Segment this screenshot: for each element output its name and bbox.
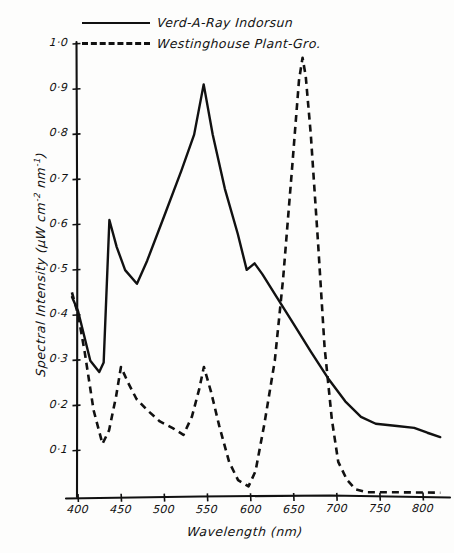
x-tick-label: 700	[319, 502, 354, 515]
y-tick-mark	[73, 134, 81, 135]
y-axis-title: Spectral Intensity (μW cm-2 nm-1)	[30, 140, 49, 390]
x-axis-line	[66, 496, 450, 499]
y-tick-label: 0·2	[39, 398, 68, 411]
y-axis-title-unit-a: μW cm	[33, 202, 48, 249]
y-tick-mark	[73, 224, 81, 225]
y-tick-label: 1·0	[39, 36, 68, 49]
y-axis-title-prefix: Spectral Intensity (	[33, 247, 48, 377]
y-tick-mark	[73, 270, 81, 271]
y-axis-title-unit-b: nm	[33, 166, 48, 193]
x-tick-label: 600	[233, 503, 268, 516]
axes-group	[66, 42, 450, 502]
x-tick-label: 500	[147, 503, 182, 516]
plot-area: 0·10·20·30·40·50·60·70·80·91·0 400450500…	[0, 0, 454, 553]
chart-figure: Verd-A-Ray Indorsun Westinghouse Plant-G…	[0, 0, 454, 553]
series-line-verd-a-ray	[72, 84, 440, 437]
y-tick-mark	[73, 360, 81, 361]
y-tick-mark	[73, 450, 81, 451]
y-tick-mark	[73, 44, 81, 45]
x-axis-title: Wavelength (nm)	[149, 524, 340, 539]
y-tick-mark	[73, 405, 81, 406]
y-axis-title-exponent-a: -2	[31, 192, 41, 202]
x-tick-label: 750	[362, 502, 397, 515]
x-tick-label: 400	[60, 503, 95, 516]
y-axis-title-exponent-b: -1	[31, 157, 41, 167]
x-tick-label: 800	[405, 502, 440, 515]
x-tick-label: 450	[104, 503, 139, 516]
series-line-westinghouse	[72, 58, 440, 493]
y-tick-mark	[73, 89, 81, 90]
x-tick-label: 650	[276, 503, 311, 516]
y-tick-label: 0·1	[39, 443, 68, 456]
y-tick-label: 0·9	[39, 81, 68, 94]
x-tick-label: 550	[190, 503, 225, 516]
y-tick-mark	[73, 179, 81, 180]
y-tick-label: 0·8	[39, 126, 68, 139]
